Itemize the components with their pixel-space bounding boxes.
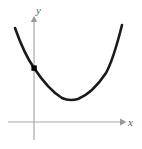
x-axis-arrowhead-icon bbox=[120, 119, 127, 126]
y-axis-arrowhead-icon bbox=[31, 16, 37, 22]
y-axis-label: y bbox=[35, 4, 41, 16]
math-figure: y x bbox=[0, 0, 142, 149]
parabola-curve bbox=[15, 25, 122, 100]
x-axis-label: x bbox=[127, 116, 133, 128]
graph-canvas: y x bbox=[0, 0, 142, 149]
y-intercept-point-marker bbox=[31, 65, 36, 70]
